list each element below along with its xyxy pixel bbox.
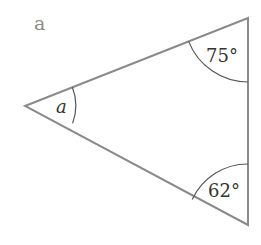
figure-label: a: [34, 12, 45, 34]
angle-arc-left: [72, 87, 75, 123]
triangle-diagram: a a 75° 62°: [0, 0, 261, 245]
angle-label-bottom: 62°: [208, 180, 240, 201]
angle-label-left: a: [56, 96, 67, 117]
angle-label-top: 75°: [206, 45, 238, 66]
